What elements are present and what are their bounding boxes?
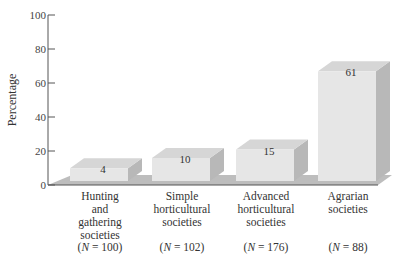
bar-value-label: 15 xyxy=(264,145,276,157)
sample-size-label: (N = 100) xyxy=(55,241,145,253)
category-label: Huntingandgatheringsocieties xyxy=(55,190,145,242)
sample-size-label: (N = 88) xyxy=(303,241,393,253)
y-tick-label: 20 xyxy=(35,145,47,157)
category-label: Simplehorticulturalsocieties xyxy=(137,190,227,229)
bar: 61 xyxy=(318,61,390,181)
y-tick-label: 40 xyxy=(35,111,47,123)
bar-value-label: 10 xyxy=(180,153,192,165)
category-label: Advancedhorticulturalsocieties xyxy=(221,190,311,229)
bar: 10 xyxy=(152,148,224,181)
y-tick-label: 0 xyxy=(41,179,47,191)
y-tick-label: 100 xyxy=(30,9,47,21)
bar-value-label: 61 xyxy=(346,66,357,78)
bar-value-label: 4 xyxy=(100,163,106,175)
bar: 15 xyxy=(236,140,308,182)
y-tick-label: 60 xyxy=(35,77,47,89)
sample-size-label: (N = 176) xyxy=(221,241,311,253)
sample-size-label: (N = 102) xyxy=(137,241,227,253)
y-axis-label: Percentage xyxy=(5,74,19,127)
bar: 4 xyxy=(70,158,142,181)
category-label: Agrariansocieties xyxy=(303,190,393,216)
y-tick-label: 80 xyxy=(35,43,47,55)
bars: 4101561 xyxy=(70,61,390,181)
